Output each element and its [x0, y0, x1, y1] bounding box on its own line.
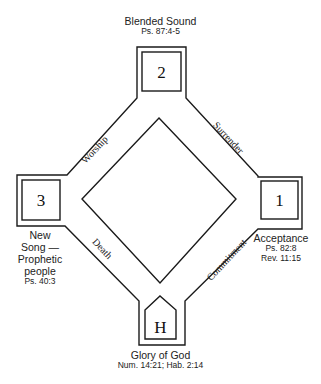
path-label-worship: Worship: [79, 134, 110, 166]
diagram-canvas: 2 1 3 H Worship Surrender Death Commitme…: [0, 0, 321, 384]
station-number-3: 3: [37, 191, 46, 210]
station-ref: Ps. 87:4-5: [100, 27, 221, 37]
path-label-commitment: Commitment: [204, 236, 248, 282]
station-title-line: New: [10, 229, 70, 241]
station-ref: Ps. 40:3: [10, 277, 70, 287]
path-label-surrender: Surrender: [211, 119, 246, 156]
path-label-death: Death: [90, 236, 114, 261]
station-label-right: Acceptance Ps. 82:8 Rev. 11:15: [246, 232, 316, 264]
station-number-1: 1: [275, 191, 284, 210]
station-number-h: H: [154, 318, 166, 337]
diamond-path-diagram: 2 1 3 H Worship Surrender Death Commitme…: [0, 0, 321, 384]
station-label-top: Blended Sound Ps. 87:4-5: [100, 15, 221, 37]
station-label-left: New Song — Prophetic people Ps. 40:3: [10, 229, 70, 287]
station-number-2: 2: [157, 63, 166, 82]
station-label-bottom: Glory of God Num. 14:21; Hab. 2:14: [90, 349, 231, 371]
station-ref: Rev. 11:15: [246, 254, 316, 264]
station-title-line: Song —: [10, 241, 70, 253]
station-title-line: Prophetic: [10, 253, 70, 265]
station-ref: Num. 14:21; Hab. 2:14: [90, 361, 231, 371]
